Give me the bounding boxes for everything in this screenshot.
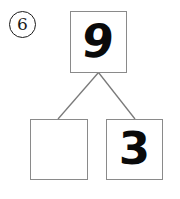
connector-line-right	[99, 73, 136, 120]
number-bond-problem: 6 9 3	[0, 0, 180, 199]
part-right-digit: 3	[119, 126, 150, 171]
whole-number-digit: 9	[80, 18, 117, 64]
part-box-right[interactable]: 3	[106, 119, 163, 180]
whole-number-box[interactable]: 9	[70, 11, 127, 73]
part-box-left-empty[interactable]	[30, 119, 88, 180]
connector-line-left	[58, 73, 99, 120]
